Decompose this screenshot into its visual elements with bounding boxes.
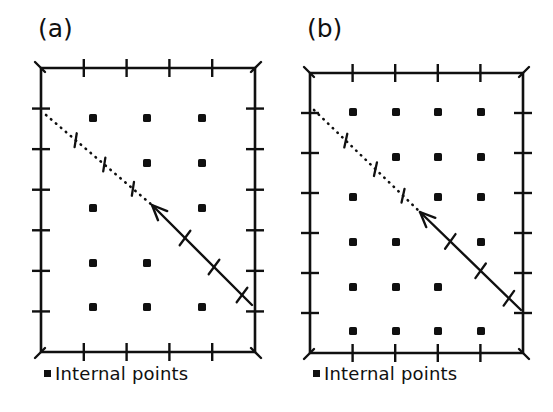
panel-a-legend: Internal points bbox=[44, 363, 188, 384]
internal-point-marker bbox=[477, 327, 485, 335]
internal-point-marker bbox=[89, 114, 97, 122]
panels-root bbox=[32, 59, 532, 362]
internal-point-marker bbox=[349, 108, 357, 116]
internal-point-marker bbox=[198, 114, 206, 122]
internal-point-marker bbox=[434, 153, 442, 161]
internal-point-marker bbox=[198, 159, 206, 167]
internal-point-marker bbox=[477, 193, 485, 201]
panel-b-dotted-hatch bbox=[402, 189, 405, 203]
panel-a-solid-boundary bbox=[152, 205, 252, 305]
internal-point-marker bbox=[349, 193, 357, 201]
filled-square-icon bbox=[44, 370, 51, 377]
panel-a-dotted-boundary bbox=[46, 115, 152, 205]
internal-point-marker bbox=[392, 238, 400, 246]
panel-a-label: (a) bbox=[38, 14, 73, 43]
internal-point-marker bbox=[477, 153, 485, 161]
internal-point-marker bbox=[349, 283, 357, 291]
panel-a bbox=[32, 59, 264, 361]
panel-b-dotted-boundary bbox=[314, 110, 420, 212]
internal-point-marker bbox=[198, 204, 206, 212]
panel-b-legend-label: Internal points bbox=[324, 363, 457, 384]
internal-point-marker bbox=[392, 283, 400, 291]
panel-b bbox=[301, 64, 532, 362]
internal-point-marker bbox=[477, 238, 485, 246]
internal-point-marker bbox=[198, 303, 206, 311]
internal-point-marker bbox=[143, 259, 151, 267]
internal-point-marker bbox=[434, 283, 442, 291]
internal-point-marker bbox=[89, 303, 97, 311]
panel-b-solid-boundary bbox=[420, 212, 521, 310]
figure-canvas bbox=[0, 0, 553, 412]
internal-point-marker bbox=[434, 327, 442, 335]
panel-b-dotted-hatch bbox=[344, 134, 347, 148]
internal-point-marker bbox=[143, 159, 151, 167]
internal-point-marker bbox=[434, 193, 442, 201]
internal-point-marker bbox=[392, 153, 400, 161]
filled-square-icon bbox=[313, 370, 320, 377]
internal-point-marker bbox=[434, 108, 442, 116]
panel-a-dotted-hatch bbox=[103, 158, 105, 172]
panel-b-legend: Internal points bbox=[313, 363, 457, 384]
internal-point-marker bbox=[143, 303, 151, 311]
panel-b-dotted-hatch bbox=[374, 162, 377, 176]
panel-a-dotted-hatch bbox=[75, 133, 77, 147]
internal-point-marker bbox=[349, 327, 357, 335]
panel-b-label: (b) bbox=[307, 14, 342, 43]
internal-point-marker bbox=[477, 108, 485, 116]
panel-a-legend-label: Internal points bbox=[55, 363, 188, 384]
panel-a-dotted-hatch bbox=[132, 182, 134, 196]
internal-point-marker bbox=[89, 204, 97, 212]
internal-point-marker bbox=[392, 327, 400, 335]
internal-point-marker bbox=[89, 259, 97, 267]
internal-point-marker bbox=[392, 108, 400, 116]
internal-point-marker bbox=[349, 238, 357, 246]
internal-point-marker bbox=[143, 114, 151, 122]
